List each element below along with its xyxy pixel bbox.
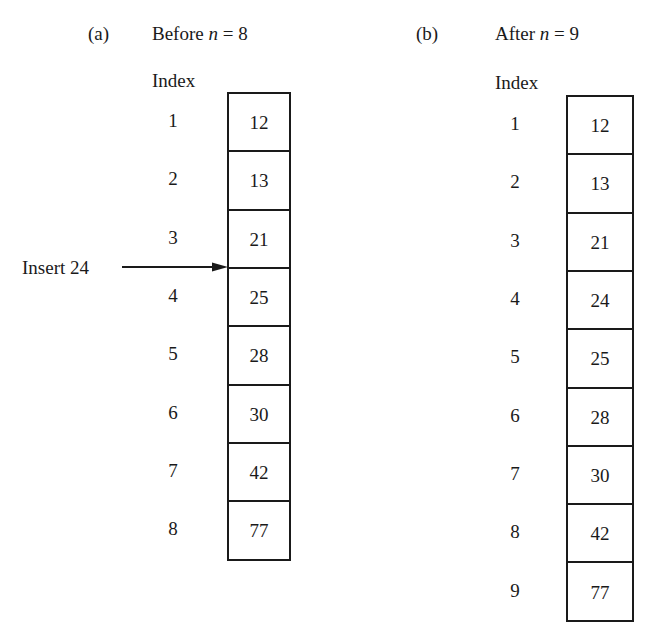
cell-value: 21 [591, 232, 610, 254]
cell-value: 28 [591, 407, 610, 429]
insert-arrow-icon [122, 261, 228, 273]
array-cell: 24 [568, 270, 632, 330]
array-cell: 13 [568, 153, 632, 213]
panel-a-title-prefix: Before [152, 23, 208, 44]
panel-b-title: After n = 9 [495, 24, 579, 43]
array-cell: 12 [568, 97, 632, 155]
index-label: 9 [500, 581, 530, 600]
cell-value: 25 [591, 348, 610, 370]
index-label: 6 [158, 403, 188, 422]
array-cell: 13 [229, 150, 289, 210]
panel-b-index-header: Index [495, 73, 538, 92]
array-cell: 77 [568, 561, 632, 621]
array-cell: 25 [568, 328, 632, 388]
index-label: 5 [500, 347, 530, 366]
array-cell: 21 [229, 209, 289, 269]
panel-b-title-prefix: After [495, 23, 540, 44]
array-cell: 77 [229, 500, 289, 560]
panel-a-title-var: n [208, 23, 218, 44]
panel-a-tag: (a) [88, 24, 109, 43]
index-label: 7 [500, 464, 530, 483]
cell-value: 24 [591, 290, 610, 312]
panel-b-title-var: n [540, 23, 550, 44]
index-label: 3 [500, 231, 530, 250]
index-label: 1 [500, 114, 530, 133]
panel-a-index-header: Index [152, 71, 195, 90]
array-cell: 28 [229, 325, 289, 385]
index-label: 4 [158, 286, 188, 305]
cell-value: 13 [250, 170, 269, 192]
panel-a-title-suffix: = 8 [218, 23, 248, 44]
index-label: 2 [158, 169, 188, 188]
index-label: 2 [500, 172, 530, 191]
cell-value: 25 [250, 287, 269, 309]
array-cell: 42 [568, 503, 632, 563]
array-cell: 21 [568, 212, 632, 272]
array-cell: 12 [229, 94, 289, 152]
index-label: 5 [158, 344, 188, 363]
index-label: 8 [500, 522, 530, 541]
array-cell: 25 [229, 267, 289, 327]
cell-value: 77 [250, 520, 269, 542]
panel-a-title: Before n = 8 [152, 24, 248, 43]
cell-value: 30 [250, 404, 269, 426]
cell-value: 42 [591, 523, 610, 545]
index-label: 8 [158, 519, 188, 538]
cell-value: 12 [250, 112, 269, 134]
cell-value: 30 [591, 465, 610, 487]
cell-value: 13 [591, 173, 610, 195]
panel-a-array: 1213212528304277 [227, 92, 291, 561]
array-cell: 28 [568, 387, 632, 447]
array-cell: 42 [229, 442, 289, 502]
cell-value: 21 [250, 229, 269, 251]
index-label: 6 [500, 406, 530, 425]
index-label: 3 [158, 228, 188, 247]
index-label: 4 [500, 289, 530, 308]
index-label: 1 [158, 111, 188, 130]
cell-value: 42 [250, 462, 269, 484]
array-cell: 30 [568, 445, 632, 505]
array-cell: 30 [229, 384, 289, 444]
panel-b-tag: (b) [416, 24, 438, 43]
insert-label: Insert 24 [22, 258, 89, 277]
cell-value: 12 [591, 115, 610, 137]
index-label: 7 [158, 461, 188, 480]
panel-b-title-suffix: = 9 [549, 23, 579, 44]
cell-value: 77 [591, 582, 610, 604]
panel-b-array: 121321242528304277 [566, 95, 634, 622]
cell-value: 28 [250, 345, 269, 367]
